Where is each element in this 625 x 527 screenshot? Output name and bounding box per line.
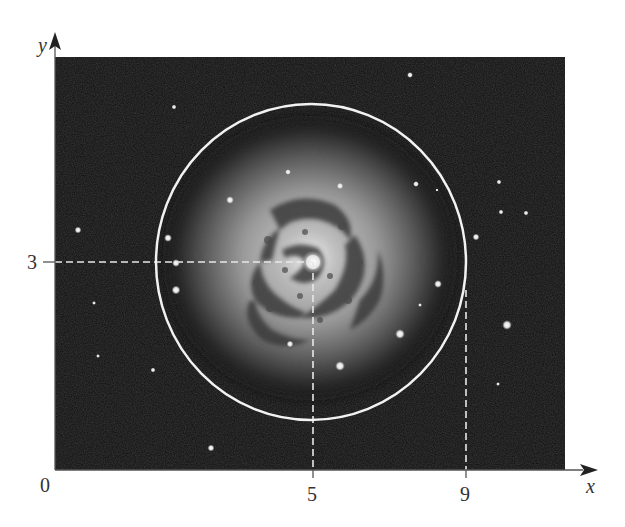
y-axis-label: y [38,35,47,55]
y-tick-label-3: 3 [27,252,37,272]
x-tick-label-9: 9 [460,484,470,504]
galaxy-photo [55,57,565,470]
x-axis-label: x [586,476,595,496]
galaxy-coordinate-figure [0,0,625,527]
origin-label: 0 [40,475,50,495]
x-tick-label-5: 5 [307,484,317,504]
